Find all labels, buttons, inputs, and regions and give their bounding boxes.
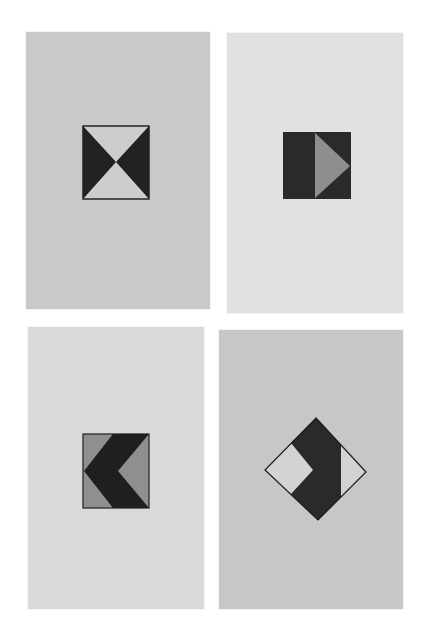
chevron-left-icon	[83, 434, 149, 508]
play-arrow-icon	[283, 132, 351, 199]
pattern-layer	[0, 0, 425, 633]
diamond-notch-icon	[265, 418, 366, 520]
hourglass-icon	[83, 126, 149, 199]
